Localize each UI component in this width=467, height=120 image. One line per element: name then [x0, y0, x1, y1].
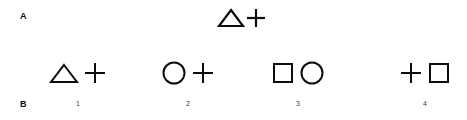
option-4-number: 4: [370, 100, 467, 107]
option-3-shapes: [243, 52, 353, 94]
triangle-icon: [49, 61, 79, 85]
option-4-shapes: [370, 52, 467, 94]
option-row: 1 2: [0, 52, 467, 120]
option-2-number: 2: [133, 100, 243, 107]
option-1-number: 1: [23, 100, 133, 107]
square-icon: [271, 61, 295, 85]
option-3-number: 3: [243, 100, 353, 107]
plus-icon: [245, 7, 267, 29]
circle-icon: [161, 60, 187, 86]
circle-icon: [299, 60, 325, 86]
plus-icon: [83, 61, 107, 85]
sample-stimulus-pair: [196, 4, 288, 32]
panel-label-a: A: [20, 12, 27, 21]
option-item-1[interactable]: 1: [23, 52, 133, 120]
option-item-4[interactable]: 4: [370, 52, 467, 120]
stimulus-figure: A B: [0, 0, 467, 120]
option-item-2[interactable]: 2: [133, 52, 243, 120]
option-1-shapes: [23, 52, 133, 94]
option-2-shapes: [133, 52, 243, 94]
square-icon: [427, 61, 451, 85]
triangle-icon: [217, 7, 245, 29]
plus-icon: [399, 61, 423, 85]
plus-icon: [191, 61, 215, 85]
option-item-3[interactable]: 3: [243, 52, 353, 120]
